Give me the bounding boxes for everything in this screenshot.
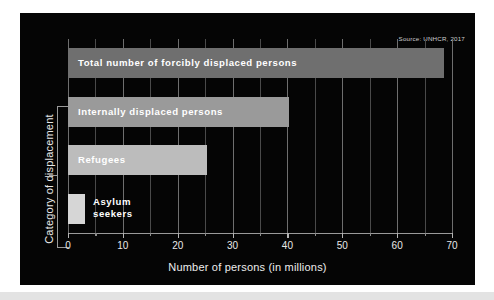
x-axis-tick-minor bbox=[95, 233, 96, 236]
x-axis-tick-minor bbox=[260, 233, 261, 236]
bar-label: Internally displaced persons bbox=[78, 106, 223, 118]
bar-label: Asylum seekers bbox=[93, 196, 133, 220]
bar-label: Total number of forcibly displaced perso… bbox=[78, 57, 297, 69]
bar-label: Refugees bbox=[78, 154, 126, 166]
x-axis-title: Number of persons (in millions) bbox=[20, 261, 475, 273]
x-axis-tick bbox=[178, 233, 179, 238]
x-axis-tick-minor bbox=[315, 233, 316, 236]
x-axis-tick-label: 30 bbox=[213, 240, 253, 251]
category-axis-tick bbox=[49, 175, 58, 176]
chart-plot-area: Source: UNHCR, 2017 Category of displace… bbox=[20, 13, 475, 285]
x-axis-tick-label: 10 bbox=[103, 240, 143, 251]
x-axis-tick-minor bbox=[150, 233, 151, 236]
x-axis-tick bbox=[287, 233, 288, 238]
x-axis-tick-minor bbox=[425, 233, 426, 236]
x-axis-tick bbox=[233, 233, 234, 238]
x-axis-tick bbox=[452, 233, 453, 238]
x-axis-tick bbox=[342, 233, 343, 238]
gridline-major bbox=[452, 39, 453, 233]
x-axis-tick bbox=[68, 233, 69, 238]
x-axis-tick-label: 20 bbox=[158, 240, 198, 251]
x-axis-tick-label: 0 bbox=[48, 240, 88, 251]
x-axis-tick bbox=[397, 233, 398, 238]
x-axis-tick-label: 60 bbox=[377, 240, 417, 251]
bar[interactable] bbox=[68, 194, 85, 224]
footer-strip bbox=[0, 292, 494, 300]
y-axis-title: Category of displacement bbox=[43, 104, 55, 254]
x-axis-tick bbox=[123, 233, 124, 238]
x-axis-tick-label: 40 bbox=[267, 240, 307, 251]
chart-figure: Source: UNHCR, 2017 Category of displace… bbox=[0, 0, 494, 300]
x-axis-tick-minor bbox=[205, 233, 206, 236]
x-axis-tick-label: 70 bbox=[432, 240, 472, 251]
x-axis-tick-minor bbox=[370, 233, 371, 236]
x-axis-tick-label: 50 bbox=[322, 240, 362, 251]
